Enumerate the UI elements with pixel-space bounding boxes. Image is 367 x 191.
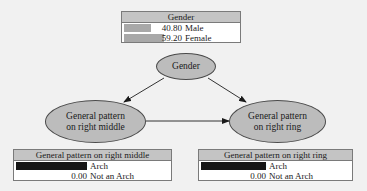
node-label-line1: General pattern	[66, 111, 125, 122]
probability-value: 0.00	[229, 171, 266, 181]
edge-gender-to-middle	[124, 78, 164, 102]
probability-value: 100.00	[50, 161, 87, 171]
table-row-arch: 100.00 Arch	[199, 161, 352, 171]
probability-value: 100.00	[229, 161, 266, 171]
right-middle-probability-table: General pattern on right middle 100.00 A…	[13, 149, 172, 181]
table-row-not-an-arch: 0.00 Not an Arch	[199, 171, 352, 181]
state-label: Arch	[269, 161, 287, 171]
table-row-not-an-arch: 0.00 Not an Arch	[14, 171, 171, 181]
right-ring-probability-table: General pattern on right ring 100.00 Arc…	[198, 149, 353, 181]
probability-value: 0.00	[50, 171, 87, 181]
node-gender[interactable]: Gender	[156, 53, 216, 80]
probability-value: 59.20	[150, 33, 182, 43]
state-label: Arch	[90, 161, 108, 171]
state-label: Not an Arch	[90, 171, 134, 181]
state-label: Male	[185, 23, 204, 33]
gender-probability-table: Gender 40.80 Male 59.20 Female	[121, 11, 241, 43]
state-label: Female	[185, 33, 212, 43]
edge-gender-to-ring	[208, 78, 246, 102]
table-title: Gender	[122, 12, 240, 23]
node-label-line1: General pattern	[248, 111, 307, 122]
node-label: Gender	[172, 61, 200, 72]
probability-value: 40.80	[150, 23, 182, 33]
table-title: General pattern on right middle	[14, 150, 171, 161]
state-label: Not an Arch	[269, 171, 313, 181]
node-general-pattern-right-ring[interactable]: General pattern on right ring	[229, 100, 326, 143]
table-title: General pattern on right ring	[199, 150, 352, 161]
node-general-pattern-right-middle[interactable]: General pattern on right middle	[45, 100, 146, 143]
probability-bar	[124, 24, 151, 32]
table-row-female: 59.20 Female	[122, 33, 240, 43]
node-label-line2: on right ring	[254, 122, 302, 133]
table-row-arch: 100.00 Arch	[14, 161, 171, 171]
bayesian-network-diagram: Gender 40.80 Male 59.20 Female Gender Ge…	[0, 0, 367, 191]
node-label-line2: on right middle	[66, 122, 125, 133]
table-row-male: 40.80 Male	[122, 23, 240, 33]
